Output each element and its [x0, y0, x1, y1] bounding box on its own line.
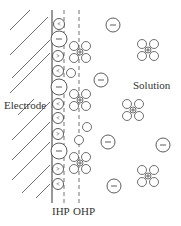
solvated-cation [138, 166, 159, 187]
solvated-cation [70, 90, 91, 111]
solvated-cation [138, 40, 159, 61]
solvated-cations [70, 40, 159, 187]
electrode-label: Electrode [4, 100, 46, 111]
ihp-label: IHP [52, 206, 70, 217]
solvated-cation [70, 153, 91, 174]
adsorbed-layer: < > < < < > > < [51, 19, 67, 190]
solution-label: Solution [133, 80, 170, 91]
solvated-cation [123, 100, 144, 121]
solvated-cation [70, 42, 91, 63]
ohp-label: OHP [73, 206, 95, 217]
double-layer-diagram: < > < < < > > < [0, 0, 181, 226]
